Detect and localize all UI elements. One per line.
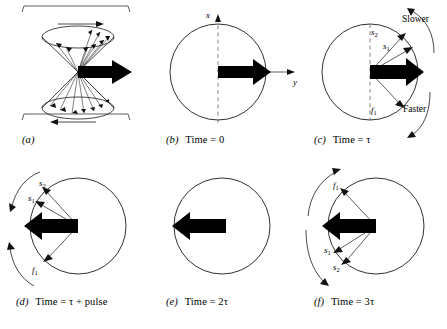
slower-label: Slower — [402, 14, 429, 24]
faster-curve-arrow — [407, 92, 430, 138]
panel-a — [0, 0, 150, 150]
magnetization-arrow — [370, 58, 424, 86]
label-f1-d: f1 — [32, 265, 38, 276]
label-s2-f: s2 — [333, 262, 340, 273]
panel-b — [150, 0, 298, 150]
panel-a-caption: (a) — [22, 134, 35, 145]
lower-spin-vectors — [50, 72, 109, 113]
label-s2-d: s2 — [39, 178, 46, 189]
panel-e-diagram — [150, 158, 298, 298]
panel-d — [0, 158, 150, 298]
upper-spin-vectors — [56, 30, 110, 72]
panel-b-text: Time = 0 — [185, 134, 224, 145]
label-s2-c: s2 — [371, 27, 378, 38]
lower-rotation-arrow — [50, 119, 96, 125]
label-f1-c: f1 — [371, 105, 377, 116]
panel-a-diagram — [0, 0, 150, 150]
panel-d-text: Time = τ + pulse — [35, 296, 107, 307]
panel-e — [150, 158, 298, 298]
faster-label: Faster — [403, 104, 426, 114]
panel-b-diagram — [150, 0, 298, 150]
panel-f-caption: (f) Time = 3τ — [314, 296, 374, 307]
top-bracket — [22, 6, 130, 12]
panel-c-text: Time = τ — [333, 134, 371, 145]
spin-echo-figure: (a) x y (b) Time = 0 — [0, 0, 447, 329]
panel-e-caption: (e) Time = 2τ — [166, 296, 228, 307]
lower-curve-arrow — [306, 230, 329, 286]
y-axis-arrowhead — [287, 69, 295, 75]
panel-e-text: Time = 2τ — [185, 296, 228, 307]
x-axis-label: x — [206, 10, 210, 20]
panel-f-label: (f) — [314, 296, 324, 307]
y-axis-label: y — [293, 77, 297, 87]
magnetization-arrow — [24, 212, 78, 240]
panel-f — [298, 158, 447, 298]
label-s1-d: s1 — [28, 193, 35, 204]
panel-f-diagram — [298, 158, 447, 298]
panel-c-caption: (c) Time = τ — [314, 134, 371, 145]
panel-b-caption: (b) Time = 0 — [166, 134, 224, 145]
lower-curve-arrow — [7, 242, 34, 286]
panel-f-text: Time = 3τ — [331, 296, 374, 307]
lower-cone-rim — [42, 97, 114, 119]
lower-spin-arrowheads — [50, 99, 109, 114]
magnetization-arrow — [218, 59, 271, 85]
upper-cone-rim — [42, 26, 114, 48]
panel-d-diagram — [0, 158, 150, 298]
label-f1-f: f1 — [333, 180, 339, 191]
x-axis-arrowhead — [215, 14, 221, 22]
panel-c-label: (c) — [314, 134, 326, 145]
magnetization-arrow — [172, 212, 226, 240]
panel-d-label: (d) — [16, 296, 29, 307]
label-s1-c: s1 — [383, 41, 390, 52]
panel-b-label: (b) — [166, 134, 179, 145]
upper-curve-arrow — [9, 172, 40, 212]
label-s1-f: s1 — [324, 245, 331, 256]
panel-d-caption: (d) Time = τ + pulse — [16, 296, 107, 307]
panel-a-label: (a) — [22, 134, 35, 145]
upper-curve-arrow — [308, 168, 341, 216]
panel-e-label: (e) — [166, 296, 178, 307]
